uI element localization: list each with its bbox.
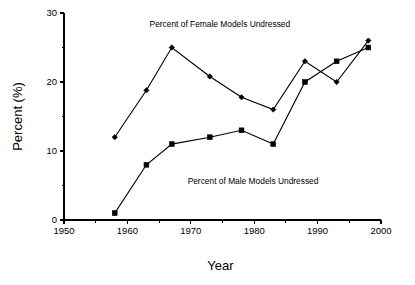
x-tick-label: 1960 bbox=[117, 225, 138, 236]
y-tick-label: 10 bbox=[46, 145, 57, 156]
series-annotations: Percent of Female Models UndressedPercen… bbox=[150, 19, 319, 186]
data-point-male bbox=[207, 135, 212, 140]
data-point-male bbox=[144, 162, 149, 167]
data-series-group bbox=[112, 38, 371, 216]
x-tick-label: 1950 bbox=[53, 225, 74, 236]
annotation-male-label: Percent of Male Models Undressed bbox=[188, 176, 319, 186]
data-point-male bbox=[239, 128, 244, 133]
chart-container: 0102030 195019601970198019902000 Percent… bbox=[0, 0, 415, 285]
series-line bbox=[115, 41, 369, 138]
data-point-male bbox=[112, 211, 117, 216]
data-point-male bbox=[366, 45, 371, 50]
x-tick-label: 1980 bbox=[244, 225, 265, 236]
y-tick-label: 20 bbox=[46, 76, 57, 87]
data-point-male bbox=[303, 80, 308, 85]
data-point-male bbox=[271, 142, 276, 147]
y-axis: 0102030 bbox=[46, 7, 64, 225]
x-tick-label: 1970 bbox=[180, 225, 201, 236]
data-point-male bbox=[169, 142, 174, 147]
series-male bbox=[112, 45, 370, 215]
y-tick-label: 30 bbox=[46, 7, 57, 18]
data-point-male bbox=[334, 59, 339, 64]
line-chart: 0102030 195019601970198019902000 Percent… bbox=[0, 0, 415, 285]
x-tick-label: 2000 bbox=[370, 225, 391, 236]
x-tick-label: 1990 bbox=[307, 225, 328, 236]
x-axis: 195019601970198019902000 bbox=[53, 220, 391, 236]
series-female bbox=[112, 38, 371, 140]
x-axis-title: Year bbox=[207, 258, 234, 273]
y-axis-title: Percent (%) bbox=[10, 82, 25, 151]
y-tick-label: 0 bbox=[52, 214, 57, 225]
annotation-female-label: Percent of Female Models Undressed bbox=[150, 19, 291, 29]
